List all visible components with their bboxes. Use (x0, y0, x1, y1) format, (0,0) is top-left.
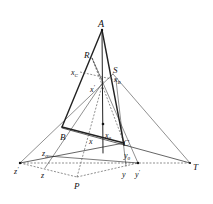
label-xprime: x' (89, 84, 96, 94)
label-z0: z0 (41, 149, 48, 159)
edge-AC (102, 30, 124, 145)
line-z-xp (45, 82, 103, 168)
point-zp (19, 162, 21, 164)
label-z: z (40, 171, 45, 180)
label-x0: x0 (104, 131, 112, 141)
label-x: x (88, 137, 93, 146)
point-A (101, 29, 103, 31)
line-S-T (113, 74, 190, 163)
label-T: T (193, 162, 199, 172)
line-A-x0 (102, 30, 103, 153)
label-A: A (97, 18, 105, 29)
dashed-zp-P (20, 163, 77, 177)
label-R: R (83, 50, 90, 60)
point-T (189, 162, 191, 164)
diagram-svg: A R S xC xB x' B C x0 x z0 z' z P y0 y y… (0, 0, 213, 204)
line-zp-C (20, 143, 124, 163)
point-dot (102, 123, 105, 126)
label-B: B (60, 132, 66, 142)
dashed-P-yp (77, 163, 138, 177)
label-S: S (113, 65, 118, 75)
label-yprime: y' (134, 169, 141, 179)
label-y0: y0 (123, 151, 131, 161)
point-yp (137, 162, 139, 164)
line-zp-S (20, 74, 113, 163)
label-y: y (121, 170, 126, 179)
geometry-diagram: A R S xC xB x' B C x0 x z0 z' z P y0 y y… (0, 0, 213, 204)
label-xB: xB (113, 75, 121, 85)
label-C: C (123, 138, 130, 148)
edge-AB (62, 30, 102, 127)
label-xC: xC (70, 68, 79, 78)
label-P: P (73, 181, 80, 191)
label-zprime: z' (13, 166, 19, 176)
